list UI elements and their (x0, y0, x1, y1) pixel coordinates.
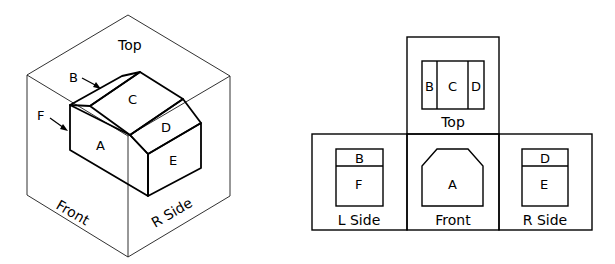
surface-a (70, 105, 148, 196)
lside-b: B (355, 151, 364, 166)
surface-d-label: D (161, 120, 171, 135)
arrow-b-label: B (69, 70, 78, 85)
arrow-f-label: F (37, 108, 44, 123)
arrow-b (82, 78, 101, 89)
rside-d: D (540, 151, 550, 166)
surface-a-label: A (96, 138, 105, 153)
front-a: A (448, 177, 457, 192)
lside-f: F (355, 177, 362, 192)
lside-view-label: L Side (338, 212, 381, 228)
front-view-label: Front (435, 212, 471, 228)
rside-view-label: R Side (523, 212, 567, 228)
surface-e-label: E (169, 153, 177, 168)
top-view-label: Top (440, 114, 465, 130)
cube-top-label: Top (117, 37, 142, 53)
arrow-f (50, 118, 68, 131)
orthographic-views (312, 37, 592, 230)
isometric-object (70, 72, 201, 196)
top-view-d: D (471, 79, 481, 94)
top-view-c: C (448, 79, 457, 94)
surface-c-label: C (128, 92, 137, 107)
cube-rside-label: R Side (149, 195, 196, 231)
top-view-b: B (425, 79, 434, 94)
projection-diagram: Top Front R Side A C D E B F B C D B F A… (0, 0, 615, 264)
rside-e: E (540, 177, 548, 192)
